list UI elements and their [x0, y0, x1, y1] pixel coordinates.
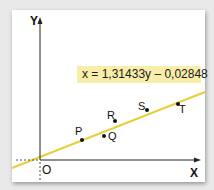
point-label-t: T [179, 104, 186, 115]
chart-plot [0, 0, 214, 190]
point-label-q: Q [108, 131, 117, 142]
y-axis-label: Y [30, 15, 38, 27]
point-q [102, 134, 106, 138]
point-s [145, 108, 149, 112]
point-label-r: R [107, 110, 115, 121]
x-axis-arrow-icon [194, 158, 201, 163]
regression-equation: x = 1,31433y – 0,02848 [77, 66, 201, 83]
point-label-s: S [138, 101, 145, 112]
point-p [80, 138, 84, 142]
x-axis-label: X [190, 167, 198, 179]
origin-label: O [42, 164, 51, 176]
y-axis-arrow-icon [38, 17, 43, 24]
point-label-p: P [75, 126, 82, 137]
